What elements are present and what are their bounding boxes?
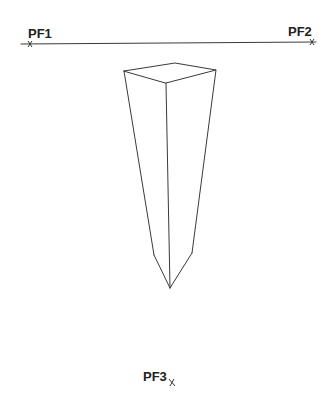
pf3-marker-icon bbox=[169, 379, 175, 386]
horizon-line bbox=[21, 42, 316, 44]
prism-front-edge bbox=[166, 83, 170, 288]
prism-right-edge bbox=[192, 70, 216, 253]
perspective-diagram: PF1 PF2 PF3 bbox=[0, 0, 335, 396]
pf2-label: PF2 bbox=[288, 24, 312, 39]
prism-bottom-left-edge bbox=[154, 255, 170, 288]
prism-top-face bbox=[124, 63, 216, 83]
prism-left-edge bbox=[124, 71, 154, 255]
prism-bottom-right-edge bbox=[170, 253, 192, 288]
pf3-label: PF3 bbox=[143, 369, 167, 384]
prism bbox=[124, 63, 216, 288]
pf1-label: PF1 bbox=[28, 26, 52, 41]
